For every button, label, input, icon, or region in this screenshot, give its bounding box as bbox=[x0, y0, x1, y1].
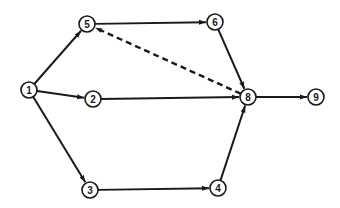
node-label: 4 bbox=[215, 183, 221, 194]
edge-1-to-3 bbox=[33, 97, 85, 182]
node-label: 1 bbox=[26, 85, 32, 96]
node-4: 4 bbox=[210, 180, 226, 196]
node-6: 6 bbox=[207, 14, 223, 30]
edge-3-to-4 bbox=[98, 188, 209, 190]
node-2: 2 bbox=[85, 91, 101, 107]
node-label: 5 bbox=[84, 19, 90, 30]
node-8: 8 bbox=[240, 89, 256, 105]
node-5: 5 bbox=[79, 16, 95, 32]
node-label: 9 bbox=[313, 92, 319, 103]
node-1: 1 bbox=[21, 82, 37, 98]
edge-4-to-8 bbox=[221, 106, 246, 181]
node-3: 3 bbox=[82, 182, 98, 198]
node-label: 8 bbox=[245, 92, 251, 103]
edge-6-to-8 bbox=[218, 29, 244, 88]
edges-layer bbox=[33, 22, 307, 190]
edge-2-to-8 bbox=[101, 97, 239, 99]
node-label: 3 bbox=[87, 185, 93, 196]
network-diagram: 12345689 bbox=[0, 0, 340, 208]
edge-1-to-2 bbox=[37, 91, 84, 98]
edge-8-to-5-dummy bbox=[95, 28, 241, 94]
edge-1-to-5 bbox=[34, 31, 81, 84]
node-9: 9 bbox=[308, 89, 324, 105]
nodes-layer: 12345689 bbox=[21, 14, 324, 198]
edge-5-to-6 bbox=[95, 22, 206, 24]
node-label: 2 bbox=[90, 94, 96, 105]
node-label: 6 bbox=[212, 17, 218, 28]
